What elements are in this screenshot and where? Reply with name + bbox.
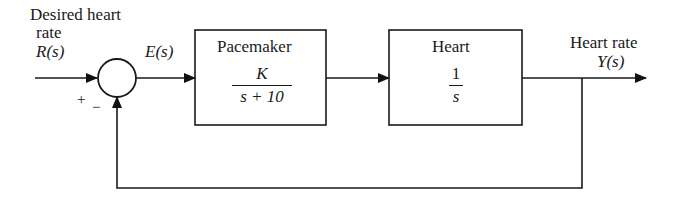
pacemaker-title: Pacemaker xyxy=(217,38,292,56)
input-label-line1: Desired heart xyxy=(30,6,121,24)
pacemaker-transfer-function: K s + 10 xyxy=(232,64,292,107)
output-label: Heart rate xyxy=(570,34,637,52)
heart-denominator: s xyxy=(449,87,463,107)
input-label-line2: rate xyxy=(36,24,61,42)
feedback-path xyxy=(117,78,582,188)
fraction-bar xyxy=(449,85,463,86)
pacemaker-denominator: s + 10 xyxy=(232,87,292,107)
output-signal-label: Y(s) xyxy=(597,53,624,71)
heart-title: Heart xyxy=(432,38,470,56)
error-signal-label: E(s) xyxy=(145,43,173,61)
heart-numerator: 1 xyxy=(449,64,463,84)
plus-sign: + xyxy=(77,90,85,108)
fraction-bar xyxy=(232,85,292,86)
pacemaker-numerator: K xyxy=(232,64,292,84)
heart-transfer-function: 1 s xyxy=(449,64,463,107)
input-signal-label: R(s) xyxy=(36,43,64,61)
summing-junction xyxy=(98,59,136,97)
minus-sign: − xyxy=(92,98,100,116)
block-diagram-canvas xyxy=(0,0,676,202)
